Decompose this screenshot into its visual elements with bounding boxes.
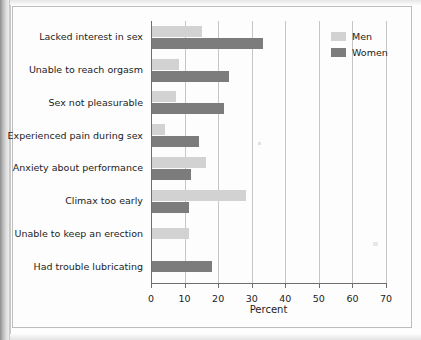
bar-women xyxy=(152,71,229,82)
scan-speckle xyxy=(258,142,261,145)
category-label: Sex not pleasurable xyxy=(49,97,143,108)
page-bottom-edge xyxy=(10,334,421,340)
x-axis-tick xyxy=(386,283,387,288)
x-axis-tick-label: 50 xyxy=(313,293,325,304)
chart-row: Anxiety about performance xyxy=(151,152,386,185)
x-axis-title: Percent xyxy=(151,304,386,315)
bar-women xyxy=(152,169,191,180)
category-label: Experienced pain during sex xyxy=(8,130,143,141)
bar-men xyxy=(152,124,165,135)
bar-women xyxy=(152,261,212,272)
legend-swatch-men-icon xyxy=(331,32,346,41)
x-axis-tick xyxy=(252,283,253,288)
category-label: Climax too early xyxy=(65,195,143,206)
bar-men xyxy=(152,228,189,239)
bar-women xyxy=(152,103,224,114)
x-axis-tick xyxy=(218,283,219,288)
legend-item-women: Women xyxy=(331,45,388,59)
bar-women xyxy=(152,202,189,213)
page-gutter-edge xyxy=(9,0,11,340)
category-label: Unable to keep an erection xyxy=(15,228,143,239)
x-axis-tick-label: 60 xyxy=(346,293,358,304)
x-axis-tick xyxy=(151,283,152,288)
category-label: Unable to reach orgasm xyxy=(29,64,143,75)
bar-women xyxy=(152,136,199,147)
chart-row: Climax too early xyxy=(151,185,386,218)
bar-women xyxy=(152,38,263,49)
bar-chart: 010203040506070Lacked interest in sexUna… xyxy=(12,6,412,328)
x-axis-tick-label: 30 xyxy=(246,293,258,304)
chart-row: Sex not pleasurable xyxy=(151,87,386,120)
legend-item-men: Men xyxy=(331,29,388,43)
bar-men xyxy=(152,157,206,168)
category-label: Anxiety about performance xyxy=(13,162,143,173)
x-axis-tick-label: 20 xyxy=(212,293,224,304)
scanned-page: 010203040506070Lacked interest in sexUna… xyxy=(0,0,421,340)
x-axis-tick-label: 70 xyxy=(380,293,392,304)
legend-label-women: Women xyxy=(352,47,388,58)
category-label: Lacked interest in sex xyxy=(39,31,143,42)
chart-row: Unable to keep an erection xyxy=(151,218,386,251)
bar-men xyxy=(152,190,246,201)
x-axis-tick-label: 10 xyxy=(179,293,191,304)
legend-swatch-women-icon xyxy=(331,48,346,57)
page-top-edge xyxy=(10,0,421,5)
x-axis-tick-label: 0 xyxy=(148,293,154,304)
x-axis-tick xyxy=(185,283,186,288)
bar-men xyxy=(152,59,179,70)
category-label: Had trouble lubricating xyxy=(33,261,143,272)
bar-men xyxy=(152,26,202,37)
x-axis-tick-label: 40 xyxy=(279,293,291,304)
x-axis-tick xyxy=(319,283,320,288)
x-axis-tick xyxy=(285,283,286,288)
scan-speckle xyxy=(373,242,378,246)
bar-men xyxy=(152,91,176,102)
legend-label-men: Men xyxy=(352,31,372,42)
chart-row: Had trouble lubricating xyxy=(151,250,386,283)
x-axis-tick xyxy=(352,283,353,288)
chart-row: Experienced pain during sex xyxy=(151,119,386,152)
chart-legend: Men Women xyxy=(331,29,388,61)
